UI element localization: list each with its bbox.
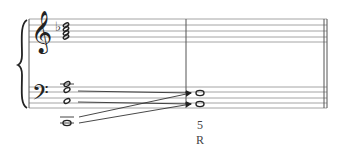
annotation-label: R <box>196 133 204 147</box>
bass-staff <box>29 87 327 108</box>
bass-chord-right <box>196 90 204 106</box>
measure-number-label: 5 <box>197 118 203 132</box>
voice-leading-arrows <box>78 91 191 123</box>
music-score: 𝄞 𝄢 ♭ 5 R <box>0 0 342 155</box>
system-brace <box>18 20 27 108</box>
flat-accidental-icon: ♭ <box>55 19 61 34</box>
treble-staff <box>29 19 327 42</box>
treble-clef-icon: 𝄞 <box>31 11 52 54</box>
bass-clef-icon: 𝄢 <box>32 80 49 110</box>
